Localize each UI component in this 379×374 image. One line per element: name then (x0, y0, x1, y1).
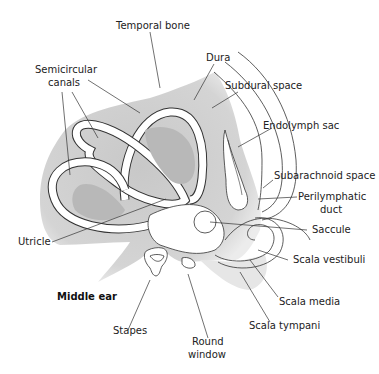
label-subdural-space: Subdural space (225, 80, 302, 92)
inner-ear-diagram (0, 0, 379, 374)
label-scala-tympani: Scala tympani (249, 320, 320, 332)
label-semicircular-canals-line2: canals (48, 77, 80, 89)
label-perilymphatic-duct-line2: duct (320, 204, 342, 216)
label-middle-ear: Middle ear (57, 291, 117, 303)
label-saccule: Saccule (312, 224, 351, 236)
label-round-window-line1: Round (192, 336, 224, 348)
label-temporal-bone: Temporal bone (116, 20, 190, 32)
label-endolymph-sac: Endolymph sac (263, 120, 339, 132)
label-dura: Dura (206, 52, 230, 64)
label-utricle: Utricle (18, 236, 51, 248)
label-scala-vestibuli: Scala vestibuli (293, 254, 365, 266)
stapes-shape (144, 248, 167, 276)
label-perilymphatic-duct-line1: Perilymphatic (298, 191, 366, 203)
label-round-window-line2: window (188, 349, 226, 361)
label-stapes: Stapes (113, 325, 147, 337)
label-scala-media: Scala media (279, 296, 340, 308)
label-semicircular-canals-line1: Semicircular (35, 64, 97, 76)
label-subarachnoid-space: Subarachnoid space (274, 170, 375, 182)
